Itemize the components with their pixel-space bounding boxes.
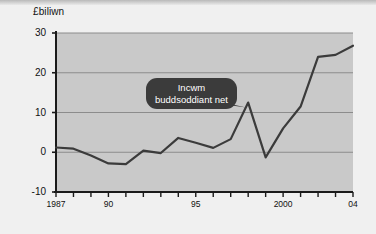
chart-figure: £biliwn 3020100-10 19879095200004 Incwm … bbox=[0, 0, 376, 234]
x-tick-label: 04 bbox=[336, 199, 370, 209]
y-tick-label: 0 bbox=[20, 146, 46, 157]
x-tick-label: 95 bbox=[179, 199, 213, 209]
y-tick-label: 20 bbox=[20, 67, 46, 78]
x-tick-label: 90 bbox=[91, 199, 125, 209]
y-tick-label: 30 bbox=[20, 27, 46, 38]
callout-line-1: Incwm bbox=[155, 82, 228, 94]
plot-area bbox=[52, 31, 353, 197]
series-callout-label: Incwm buddsoddiant net bbox=[146, 78, 237, 109]
y-tick-label: -10 bbox=[20, 186, 46, 197]
y-tick-label: 10 bbox=[20, 107, 46, 118]
x-tick-label: 2000 bbox=[266, 199, 300, 209]
callout-line-2: buddsoddiant net bbox=[155, 94, 228, 106]
x-tick-label: 1987 bbox=[39, 199, 73, 209]
